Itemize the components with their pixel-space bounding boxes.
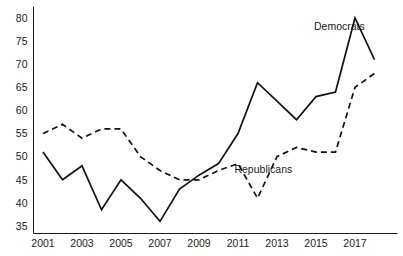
x-tick-label: 2005 xyxy=(109,237,133,249)
y-tick-label: 60 xyxy=(16,104,28,116)
y-tick-label: 55 xyxy=(16,127,28,139)
x-tick-label: 2003 xyxy=(70,237,94,249)
y-tick-label: 45 xyxy=(16,174,28,186)
series-line-democrats xyxy=(43,18,375,221)
x-tick-label: 2015 xyxy=(304,237,328,249)
x-axis-tick-labels: 200120032005200720092011201320152017 xyxy=(31,237,367,249)
x-tick-label: 2011 xyxy=(227,237,250,249)
y-tick-label: 50 xyxy=(16,150,28,162)
x-tick-label: 2013 xyxy=(265,237,289,249)
y-tick-label: 40 xyxy=(16,197,28,209)
line-chart: 35404550556065707580 2001200320052007200… xyxy=(0,0,403,256)
y-tick-label: 65 xyxy=(16,81,28,93)
y-tick-label: 75 xyxy=(16,35,28,47)
series-line-republicans xyxy=(43,73,375,198)
y-tick-label: 70 xyxy=(16,58,28,70)
series-label-republicans: Republicans xyxy=(234,163,292,175)
axes-group xyxy=(34,7,398,234)
chart-canvas: 35404550556065707580 2001200320052007200… xyxy=(0,0,403,256)
x-tick-label: 2007 xyxy=(148,237,172,249)
series-annotations: DemocratsRepublicans xyxy=(234,20,364,175)
series-lines xyxy=(43,18,375,221)
y-tick-label: 80 xyxy=(16,12,28,24)
x-tick-label: 2009 xyxy=(187,237,211,249)
y-axis-tick-labels: 35404550556065707580 xyxy=(16,12,28,232)
y-tick-label: 35 xyxy=(16,220,28,232)
x-tick-label: 2001 xyxy=(31,237,55,249)
x-tick-label: 2017 xyxy=(343,237,367,249)
series-label-democrats: Democrats xyxy=(314,20,365,32)
